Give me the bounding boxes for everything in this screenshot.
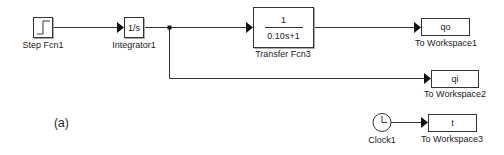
branch-point-icon (168, 26, 172, 30)
arrowhead-icon (421, 117, 428, 128)
to-workspace2-variable: qi (451, 74, 458, 84)
tf-numerator: 1 (281, 14, 286, 26)
integrator-label: Integrator1 (112, 40, 156, 50)
to-workspace2-block[interactable]: qi (431, 70, 479, 88)
figure-label: (a) (54, 116, 69, 130)
arrowhead-icon (424, 73, 431, 84)
step-fcn-label: Step Fcn1 (22, 40, 63, 50)
to-workspace2-label: To Workspace2 (424, 89, 486, 99)
arrowhead-icon (117, 22, 124, 33)
integrator-content: 1/s (128, 23, 140, 33)
to-workspace1-block[interactable]: qo (421, 18, 470, 36)
to-workspace3-block[interactable]: t (428, 114, 477, 132)
to-workspace3-label: To Workspace3 (421, 134, 483, 144)
tf-denominator: 0.10s+1 (267, 31, 299, 42)
step-icon (34, 18, 52, 37)
clock-icon (373, 114, 391, 132)
simulink-diagram: Step Fcn1 1/s Integrator1 1 0.10s+1 Tran… (0, 0, 504, 155)
arrowhead-icon (414, 22, 421, 33)
to-workspace1-variable: qo (440, 22, 450, 32)
step-fcn-block[interactable] (33, 17, 53, 38)
arrowhead-icon (246, 22, 253, 33)
transfer-fcn-block[interactable]: 1 0.10s+1 (253, 7, 314, 48)
clock-block[interactable] (371, 111, 393, 133)
transfer-fcn-label: Transfer Fcn3 (255, 49, 311, 59)
integrator-block[interactable]: 1/s (124, 17, 144, 38)
to-workspace3-variable: t (451, 118, 454, 128)
tf-fraction-bar (265, 27, 303, 28)
clock-label: Clock1 (368, 135, 396, 145)
to-workspace1-label: To Workspace1 (415, 38, 477, 48)
